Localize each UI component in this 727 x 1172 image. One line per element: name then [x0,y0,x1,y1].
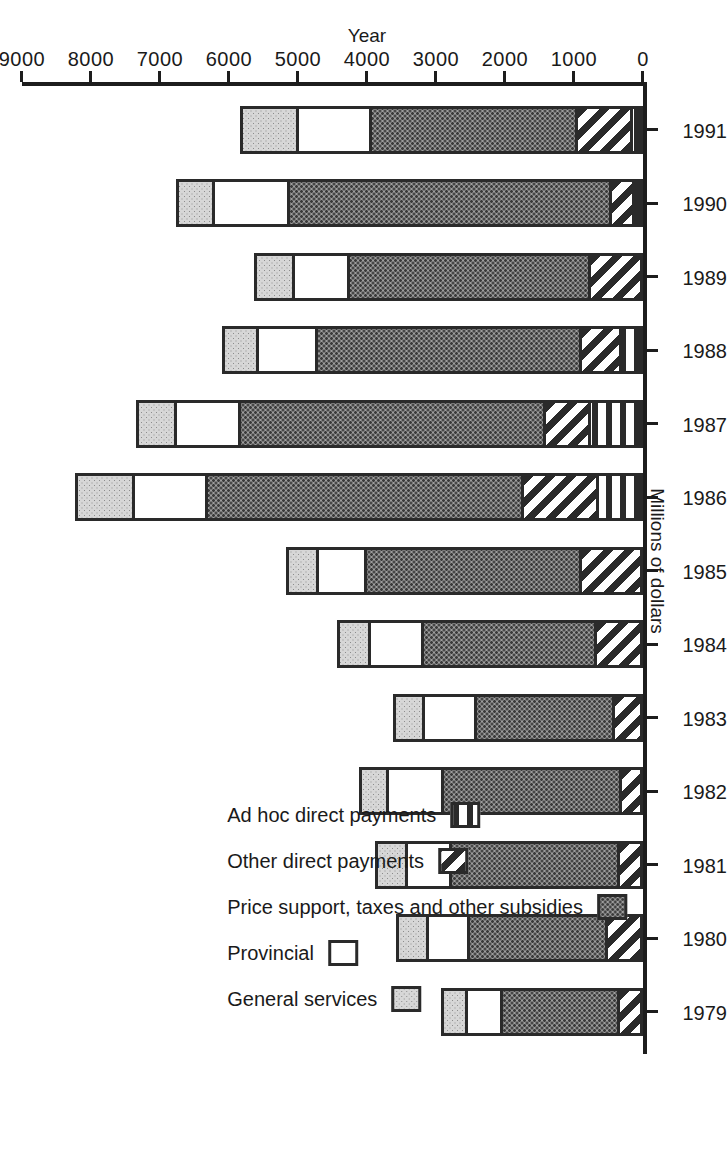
bar-segment [521,474,599,522]
bar-segment [174,400,241,448]
bar-segment [596,474,643,522]
bar-segment [594,621,643,669]
legend-label: Provincial [227,942,314,965]
value-tick [366,71,369,82]
value-tick-label: 8000 [68,48,115,71]
chart-figure: 0100020003000400050006000700080009000 19… [0,0,727,1172]
bar-segment [75,474,135,522]
value-tick [159,71,162,82]
value-tick-label: 9000 [0,48,45,71]
bar-segment [292,253,350,301]
value-tick [90,71,93,82]
bar-segment [286,547,319,595]
bar-segment [588,253,643,301]
bar-segment [337,621,371,669]
bar-segment [240,106,299,154]
bar-segment [132,474,208,522]
bar-segment [254,253,296,301]
value-tick [228,71,231,82]
bar-1985 [0,547,727,595]
bar-segment [422,694,477,742]
bar-segment [421,621,597,669]
bar-1986 [0,474,727,522]
bar-segment [588,400,643,448]
bar-segment [575,106,633,154]
value-tick-label: 0 [637,48,649,71]
bar-segment [579,327,622,375]
bar-1991 [0,106,727,154]
bar-1988 [0,327,727,375]
legend-label: General services [227,988,377,1011]
legend-label: Ad hoc direct payments [227,804,436,827]
value-tick-label: 2000 [482,48,529,71]
value-tick [504,71,507,82]
bar-segment [368,621,423,669]
bar-1989 [0,253,727,301]
bar-segment [315,327,582,375]
value-tick [21,71,24,82]
bar-segment [369,106,578,154]
value-tick [642,71,645,82]
legend-swatch-icon [597,894,627,920]
bar-segment [364,547,582,595]
value-tick-label: 1000 [551,48,598,71]
value-axis-line [22,82,643,86]
category-axis-title: Year [307,25,427,47]
value-tick-label: 6000 [206,48,253,71]
legend-swatch-icon [391,986,421,1012]
bar-segment [347,253,591,301]
bar-segment [256,327,318,375]
bar-segment [393,694,425,742]
bar-segment [212,180,290,228]
bar-segment [222,327,260,375]
value-tick [435,71,438,82]
value-tick-label: 5000 [275,48,322,71]
value-tick-label: 3000 [413,48,460,71]
bar-segment [238,400,547,448]
legend-swatch-icon [450,802,480,828]
bar-segment [296,106,372,154]
value-tick-label: 4000 [344,48,391,71]
legend-item: Price support, taxes and other subsidies [227,884,627,930]
bar-1983 [0,694,727,742]
bar-segment [474,694,615,742]
bar-segment [612,694,643,742]
legend-item: General services [227,976,627,1022]
legend-swatch-icon [328,940,358,966]
bar-segment [205,474,523,522]
bar-1987 [0,400,727,448]
value-tick-label: 7000 [137,48,184,71]
legend-item: Ad hoc direct payments [227,792,627,838]
legend-item: Provincial [227,930,627,976]
value-tick [297,71,300,82]
bar-segment [579,547,643,595]
chart-canvas: 0100020003000400050006000700080009000 19… [0,0,727,1172]
bar-segment [287,180,612,228]
bar-1984 [0,621,727,669]
bar-segment [543,400,590,448]
legend-swatch-icon [438,848,468,874]
legend-label: Price support, taxes and other subsidies [227,896,583,919]
bar-1990 [0,180,727,228]
bar-segment [619,327,643,375]
value-axis-title: Millions of dollars [646,431,668,691]
bar-segment [316,547,367,595]
chart-legend: General servicesProvincialPrice support,… [227,792,627,1022]
bar-segment [136,400,177,448]
legend-item: Other direct payments [227,838,627,884]
value-tick [573,71,576,82]
legend-label: Other direct payments [227,850,424,873]
bar-segment [176,180,215,228]
bar-segment [609,180,635,228]
